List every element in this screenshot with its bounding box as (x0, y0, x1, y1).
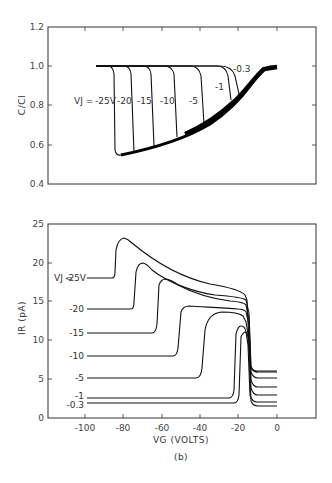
curve-label: -25V (65, 273, 87, 283)
y-tick-label: 1.0 (30, 61, 45, 71)
top-y-tick-labels: 1.2 1.0 0.8 0.6 0.4 (30, 22, 45, 189)
curve-label: -15 (137, 96, 152, 106)
curve-label: -20 (69, 304, 84, 314)
curve-label: -25V (95, 96, 117, 106)
curve-label: -5 (189, 96, 198, 106)
vj-prefix-label: VJ = (74, 96, 93, 106)
bottom-y-tick-labels: 25 20 15 10 5 0 (33, 219, 45, 423)
top-chart-ticks (48, 27, 316, 145)
x-tick-label: -80 (116, 423, 131, 433)
y-tick-label: 0.6 (30, 140, 45, 150)
curve-vj-5 (96, 66, 204, 124)
top-curve-labels: VJ = -25V -20 -15 -10 -5 -1 -0.3 (74, 64, 251, 106)
curve-label: -15 (69, 328, 84, 338)
envelope-curve-thick (185, 67, 277, 134)
y-tick-label: 1.2 (30, 22, 44, 32)
y-tick-label: 10 (33, 335, 45, 345)
curve-label: -20 (117, 96, 132, 106)
y-tick-label: 15 (33, 296, 44, 306)
curve-vj-25 (96, 66, 121, 155)
bottom-x-tick-labels: -100 -80 -60 -40 -20 0 (75, 423, 280, 433)
y-tick-label: 5 (38, 374, 44, 384)
x-tick-label: -40 (193, 423, 208, 433)
x-tick-label: -100 (75, 423, 96, 433)
top-y-axis-title: C/CI (17, 95, 27, 115)
bottom-chart: 25 20 15 10 5 0 -100 -80 -60 -40 -20 0 V… (17, 219, 316, 462)
curve-label: -0.3 (66, 400, 84, 410)
bottom-curve-labels: VJ = -25V -20 -15 -10 -5 -1 -0.3 (54, 273, 87, 410)
curve-label: -10 (69, 351, 84, 361)
curve-label: -1 (215, 82, 224, 92)
figure: 1.2 1.0 0.8 0.6 0.4 C/CI VJ = -25V -20 -… (0, 0, 332, 483)
curve-vj-15 (96, 66, 154, 146)
y-tick-label: 0 (38, 413, 44, 423)
x-tick-label: -20 (231, 423, 246, 433)
top-chart: 1.2 1.0 0.8 0.6 0.4 C/CI VJ = -25V -20 -… (17, 22, 316, 189)
y-tick-label: 0.8 (30, 100, 45, 110)
curve-vj-1 (96, 66, 231, 100)
curve-label: -5 (75, 373, 84, 383)
y-tick-label: 0.4 (30, 179, 45, 189)
x-axis-title: VG (VOLTS) (153, 435, 209, 445)
curve-label: -0.3 (233, 64, 251, 74)
curve-label: -10 (160, 96, 175, 106)
figure-caption: (b) (174, 452, 188, 462)
x-tick-label: -60 (155, 423, 170, 433)
y-tick-label: 25 (33, 219, 44, 229)
bottom-curves (87, 238, 277, 406)
x-tick-label: 0 (274, 423, 280, 433)
bottom-chart-frame (48, 224, 316, 418)
bottom-y-axis-title: IR (pA) (17, 301, 27, 335)
y-tick-label: 20 (33, 258, 45, 268)
